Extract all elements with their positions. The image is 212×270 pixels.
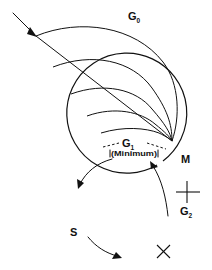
g0-arc-outer-1 (36, 27, 177, 141)
label-s: S (70, 226, 77, 238)
label-g2-sub: 2 (189, 212, 193, 219)
g0-arc-fan (36, 27, 177, 141)
cycle-arrow-upper-left-head (77, 179, 84, 189)
label-g1-main: G (122, 137, 131, 149)
cycle-arrow-bottom-shaft (88, 237, 117, 256)
label-g0: G0 (128, 10, 141, 24)
label-g1-qualifier: (Minimum) (111, 150, 157, 158)
label-m: M (181, 153, 190, 165)
label-g1-group: G1 (Minimum) (110, 137, 158, 158)
entry-arrow (13, 13, 37, 37)
cycle-arrow-right-shaft (153, 166, 168, 216)
cycle-arrow-bottom-head (112, 252, 122, 259)
label-g2: G2 (180, 205, 193, 219)
cycle-arc-g1-dashed-right (147, 143, 166, 149)
label-g0-sub: 0 (137, 17, 141, 24)
label-g0-main: G (128, 10, 137, 22)
label-g2-main: G (180, 205, 189, 217)
g0-arc-inner-5 (101, 128, 172, 141)
g0-fan-radial-edge (36, 36, 172, 141)
cycle-direction-arrows (77, 159, 168, 259)
figure-canvas: G0 G1 (Minimum) M G2 S (0, 0, 212, 270)
cycle-arrow-upper-left-shaft (80, 159, 112, 184)
label-g1: G1 (122, 137, 135, 151)
cell-cycle-figure: G0 G1 (Minimum) M G2 S (0, 0, 212, 270)
g0-arc-2 (53, 60, 172, 141)
cycle-arc-g1-dashed (103, 143, 119, 147)
